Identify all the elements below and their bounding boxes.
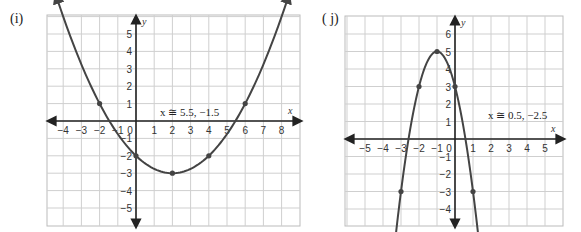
y-axis-label: y: [141, 16, 147, 27]
data-point: [243, 101, 248, 106]
y-tick-label: 5: [126, 29, 132, 40]
y-tick-label: −5: [121, 203, 133, 214]
x-tick-label: −4: [377, 143, 389, 154]
y-tick-label: 3: [126, 64, 132, 75]
x-tick-label: 3: [188, 125, 194, 136]
x-tick-label: −5: [359, 143, 371, 154]
y-tick-label: 3: [445, 82, 451, 93]
x-tick-label: −2: [94, 125, 106, 136]
graphs-canvas: xy−4−3−2−101234567854321−1−2−3−4−5x ≅ 5.…: [0, 0, 581, 232]
y-tick-label: 1: [445, 117, 451, 128]
x-axis-label: x: [287, 105, 293, 116]
y-tick-label: −4: [121, 186, 133, 197]
x-tick-label: 7: [261, 125, 267, 136]
data-point: [170, 171, 175, 176]
y-tick-label: 5: [445, 47, 451, 58]
y-tick-label: 6: [445, 29, 451, 40]
data-point: [452, 84, 457, 89]
data-point: [133, 153, 138, 158]
y-tick-label: −3: [440, 187, 452, 198]
graph-i: xy−4−3−2−101234567854321−1−2−3−4−5x ≅ 5.…: [47, 0, 300, 226]
roots-annotation: x ≅ 0.5, −2.5: [488, 109, 548, 121]
x-axis-label: x: [550, 123, 556, 134]
data-point: [206, 153, 211, 158]
x-tick-label: 2: [170, 125, 176, 136]
x-tick-label: 1: [470, 143, 476, 154]
graph-j: xy−5−4−3−2−1012345654321−1−2−3−4x ≅ 0.5,…: [345, 16, 563, 232]
x-tick-label: −3: [395, 143, 407, 154]
x-tick-label: 4: [206, 125, 212, 136]
y-tick-label: −4: [440, 204, 452, 215]
y-tick-label: 1: [126, 99, 132, 110]
y-tick-label: −2: [121, 151, 133, 162]
x-tick-label: −2: [413, 143, 425, 154]
x-tick-label: 5: [542, 143, 548, 154]
data-point: [398, 189, 403, 194]
x-tick-label: 6: [242, 125, 248, 136]
x-tick-label: 3: [506, 143, 512, 154]
y-tick-label: 2: [126, 81, 132, 92]
data-point: [97, 101, 102, 106]
x-tick-label: 1: [151, 125, 157, 136]
y-tick-label: −1: [440, 152, 452, 163]
x-tick-label: 2: [488, 143, 494, 154]
data-point: [470, 189, 475, 194]
data-point: [434, 49, 439, 54]
x-tick-label: 8: [279, 125, 285, 136]
x-tick-label: 4: [524, 143, 530, 154]
y-tick-label: −3: [121, 168, 133, 179]
roots-annotation: x ≅ 5.5, −1.5: [160, 106, 220, 118]
y-tick-label: −2: [440, 169, 452, 180]
y-axis-label: y: [460, 17, 466, 28]
x-tick-label: −3: [76, 125, 88, 136]
y-tick-label: 4: [126, 46, 132, 57]
x-tick-label: −4: [57, 125, 69, 136]
data-point: [416, 84, 421, 89]
y-tick-label: 2: [445, 99, 451, 110]
